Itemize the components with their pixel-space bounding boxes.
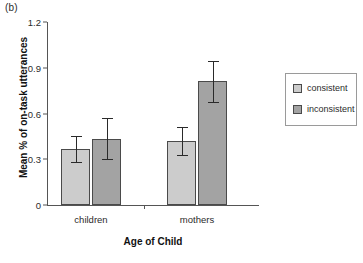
error-bar-cap-upper bbox=[71, 136, 82, 137]
legend-item-consistent: consistent bbox=[293, 83, 348, 93]
error-bar-cap-lower bbox=[71, 162, 82, 163]
error-bar-line bbox=[107, 118, 108, 159]
legend-swatch-icon bbox=[293, 84, 302, 93]
error-bar-cap-lower bbox=[208, 102, 219, 103]
legend-swatch-icon bbox=[293, 105, 302, 114]
legend-item-inconsistent: inconsistent bbox=[293, 104, 355, 114]
x-tick-mark bbox=[144, 205, 145, 209]
legend-label: consistent bbox=[307, 83, 348, 93]
figure-panel-b: (b) 00.30.60.91.2childrenmothers Mean % … bbox=[0, 0, 363, 263]
error-bar-cap-upper bbox=[102, 118, 113, 119]
y-tick-mark bbox=[43, 113, 47, 114]
plot-area: 00.30.60.91.2childrenmothers bbox=[47, 22, 259, 205]
x-category-label-mothers: mothers bbox=[180, 214, 214, 225]
error-bar-line bbox=[213, 61, 214, 102]
error-bar-cap-upper bbox=[177, 127, 188, 128]
x-axis-line bbox=[47, 205, 259, 206]
panel-label: (b) bbox=[5, 2, 18, 13]
legend-box: consistentinconsistent bbox=[285, 73, 357, 126]
y-tick-mark bbox=[43, 22, 47, 23]
legend-label: inconsistent bbox=[307, 104, 355, 114]
error-bar-line bbox=[76, 136, 77, 162]
error-bar-line bbox=[182, 127, 183, 154]
y-tick-mark bbox=[43, 159, 47, 160]
y-axis-label: Mean % of on-task utterances bbox=[18, 13, 29, 203]
y-tick-mark bbox=[43, 205, 47, 206]
y-tick-mark bbox=[43, 67, 47, 68]
x-axis-label: Age of Child bbox=[47, 236, 259, 247]
error-bar-cap-upper bbox=[208, 61, 219, 62]
x-category-label-children: children bbox=[74, 214, 107, 225]
error-bar-cap-lower bbox=[102, 159, 113, 160]
error-bar-cap-lower bbox=[177, 155, 188, 156]
